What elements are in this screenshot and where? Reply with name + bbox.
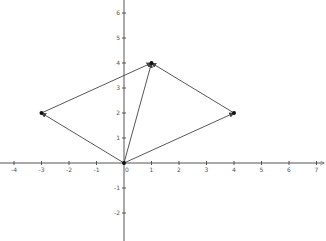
point-c	[232, 111, 236, 115]
point-a	[40, 111, 44, 115]
vector-arrow	[42, 113, 125, 163]
vector-arrow	[42, 63, 152, 113]
y-tick-label: 1	[116, 134, 120, 141]
y-tick-label: 5	[116, 34, 120, 41]
x-tick-label: 1	[150, 166, 154, 173]
vector-arrow	[152, 63, 235, 113]
y-tick-label: 4	[116, 59, 120, 66]
y-tick-label: -1	[114, 184, 120, 191]
x-tick-label: -1	[94, 166, 100, 173]
y-tick-label: 2	[116, 109, 120, 116]
x-tick-label: -2	[66, 166, 72, 173]
y-tick-label: 3	[116, 84, 120, 91]
point-o	[122, 161, 126, 165]
x-tick-label: 6	[287, 166, 291, 173]
x-tick-label: 0	[125, 166, 129, 173]
vector-plot: -4-3-2-101234567-2-1123456	[0, 0, 326, 241]
vector-arrow	[124, 63, 152, 163]
x-tick-label: -4	[11, 166, 17, 173]
y-tick-label: 6	[116, 9, 120, 16]
x-tick-label: 4	[232, 166, 236, 173]
vector-arrow	[124, 113, 234, 163]
x-tick-label: 2	[177, 166, 181, 173]
x-tick-label: 7	[315, 166, 319, 173]
plot-canvas: -4-3-2-101234567-2-1123456	[0, 0, 326, 241]
y-tick-label: -2	[114, 209, 120, 216]
x-tick-label: 3	[205, 166, 209, 173]
x-tick-label: -3	[39, 166, 45, 173]
x-tick-label: 5	[260, 166, 264, 173]
point-b	[150, 61, 154, 65]
